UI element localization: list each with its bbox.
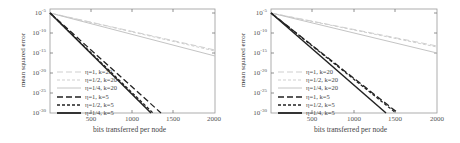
right-plot-panel: mean squared error 10-5 10-10 10-15 10-2… bbox=[230, 0, 460, 143]
x-tick: 2000 bbox=[199, 115, 229, 123]
y-tick: 10-5 bbox=[243, 8, 267, 17]
y-tick: 10-20 bbox=[243, 68, 267, 77]
x-tick: 2000 bbox=[422, 115, 452, 123]
x-tick: 1000 bbox=[117, 115, 147, 123]
y-tick: 10-10 bbox=[243, 28, 267, 37]
left-plot-panel: mean squared error 10-5 10-10 10-15 10-2… bbox=[0, 0, 230, 143]
y-tick: 10-15 bbox=[243, 48, 267, 57]
y-tick: 10-10 bbox=[22, 28, 46, 37]
x-axis-label: bits transferred per node bbox=[93, 125, 166, 134]
x-tick: 1000 bbox=[339, 115, 369, 123]
y-tick: 10-25 bbox=[243, 88, 267, 97]
y-tick: 10-30 bbox=[243, 108, 267, 117]
y-tick: 10-15 bbox=[22, 48, 46, 57]
y-tick: 10-5 bbox=[22, 8, 46, 17]
x-tick: 1500 bbox=[158, 115, 188, 123]
y-tick: 10-20 bbox=[22, 68, 46, 77]
y-tick: 10-25 bbox=[22, 88, 46, 97]
y-tick: 10-30 bbox=[22, 108, 46, 117]
x-axis-label: bits transferred per node bbox=[314, 125, 387, 134]
x-tick: 1500 bbox=[380, 115, 410, 123]
